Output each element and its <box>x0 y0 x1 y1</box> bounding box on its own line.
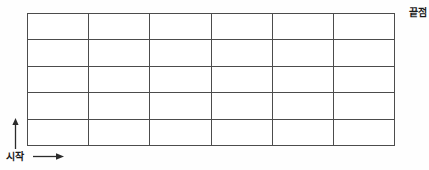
grid-cell <box>150 14 211 40</box>
start-point-label: 시작 <box>6 152 24 162</box>
grid-cell <box>334 40 395 66</box>
grid-cell <box>28 40 89 66</box>
grid-cell <box>334 67 395 93</box>
grid-cell <box>273 93 334 119</box>
grid-cell <box>150 67 211 93</box>
grid-cell <box>28 14 89 40</box>
diagram-canvas: 끝점 시작 <box>0 0 429 170</box>
grid-cell <box>273 14 334 40</box>
grid-cell <box>334 93 395 119</box>
grid-cell <box>28 120 89 146</box>
grid-cell <box>334 120 395 146</box>
grid-cell <box>334 14 395 40</box>
end-point-label: 끝점 <box>409 8 427 18</box>
grid-cell <box>212 40 273 66</box>
grid-table <box>27 13 395 146</box>
grid-cell <box>273 67 334 93</box>
grid-cell <box>150 93 211 119</box>
grid-cell <box>89 120 150 146</box>
grid-cell <box>212 120 273 146</box>
grid-cell <box>273 120 334 146</box>
grid-cell <box>150 120 211 146</box>
grid-cell <box>212 14 273 40</box>
grid-cell <box>89 93 150 119</box>
grid-cell <box>89 14 150 40</box>
grid-cell <box>28 93 89 119</box>
right-arrow-icon <box>33 151 64 162</box>
grid-cell <box>89 67 150 93</box>
grid-cell <box>212 67 273 93</box>
grid-cell <box>212 93 273 119</box>
grid-cell <box>150 40 211 66</box>
grid-cell <box>273 40 334 66</box>
grid-cell <box>89 40 150 66</box>
grid-cell <box>28 67 89 93</box>
up-arrow-icon <box>11 118 20 149</box>
